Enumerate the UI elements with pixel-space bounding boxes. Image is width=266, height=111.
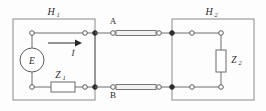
node-left-top-source [30,31,35,36]
node-right-bottom-mid [190,85,195,90]
transmission-line-bottom [116,85,156,90]
transmission-line-top [116,31,156,36]
node-tline-top-right [157,31,162,36]
impedance-z1-body [51,82,75,92]
right-block-subscript: 2 [214,11,218,18]
node-terminal-b [111,85,116,90]
node-tline-bottom-right [157,85,162,90]
circuit-diagram-figure: E Z 1 H 1 İ A B [0,0,266,111]
node-right-top-mid [190,31,195,36]
voltage-source-label: E [28,56,35,66]
impedance-z2-label: Z [231,55,237,65]
node-left-top-inner [83,31,88,36]
current-arrow-head [75,40,82,47]
impedance-z1-subscript: 1 [62,74,65,81]
node-left-bottom-inner [83,85,88,90]
node-right-port-top [170,31,175,36]
impedance-z2-body [216,50,226,72]
node-left-bottom-source [30,85,35,90]
node-right-bottom-z2 [219,85,224,90]
terminal-a-label: A [110,16,117,26]
impedance-z1-label: Z [55,70,61,80]
right-block-outline [172,19,254,100]
node-right-port-bottom [170,85,175,90]
terminal-b-label: B [110,90,116,100]
circuit-diagram-svg: E Z 1 H 1 İ A B [0,0,266,111]
left-block-label: H [46,6,55,17]
node-right-top-z2 [219,31,224,36]
right-block-label: H [204,6,213,17]
left-block-subscript: 1 [56,11,59,18]
node-terminal-a [111,31,116,36]
impedance-z2-subscript: 2 [238,59,242,66]
current-label: İ [71,48,76,58]
